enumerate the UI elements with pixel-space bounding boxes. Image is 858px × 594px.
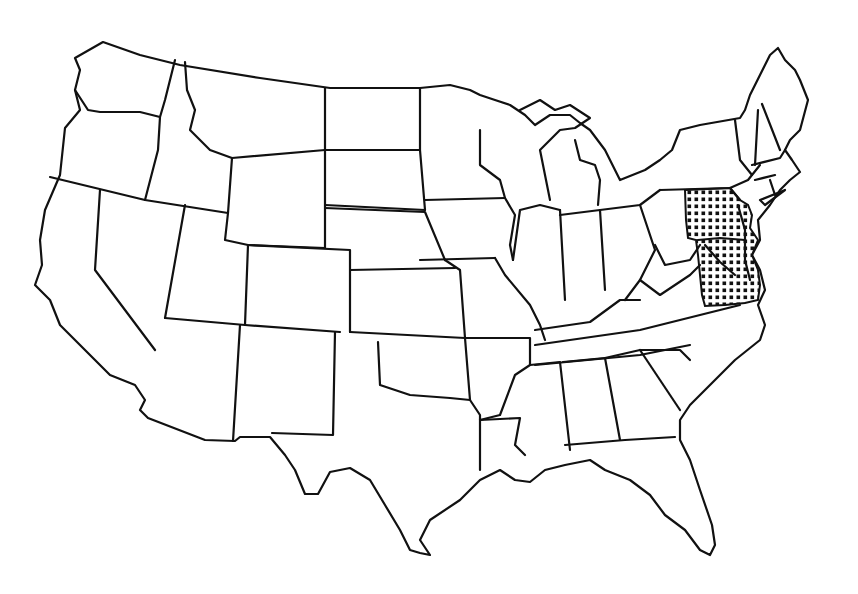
us-outline-map	[0, 0, 858, 594]
us-outer-boundary	[35, 42, 808, 555]
